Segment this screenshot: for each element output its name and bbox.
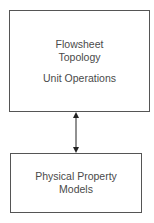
bottom-box-line-2: Models: [59, 183, 93, 196]
bottom-box-line-1: Physical Property: [35, 170, 117, 183]
physical-property-models-box: Physical Property Models: [10, 153, 142, 213]
